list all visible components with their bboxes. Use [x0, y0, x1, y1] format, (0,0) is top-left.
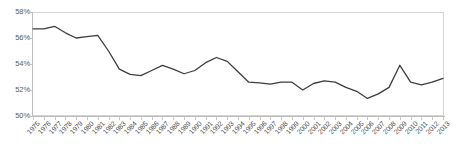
x-tick-mark — [281, 117, 282, 120]
y-tick-mark — [28, 38, 32, 39]
x-tick-mark — [216, 117, 217, 120]
x-tick-mark — [303, 117, 304, 120]
x-tick-mark — [184, 117, 185, 120]
y-tick-mark — [28, 90, 32, 91]
x-tick-mark — [400, 117, 401, 120]
x-tick-mark — [195, 117, 196, 120]
y-tick-label: 52% — [2, 86, 30, 94]
x-tick-mark — [421, 117, 422, 120]
x-tick-mark — [87, 117, 88, 120]
x-tick-mark — [292, 117, 293, 120]
x-tick-mark — [335, 117, 336, 120]
plot-area-border — [32, 12, 444, 116]
x-tick-mark — [324, 117, 325, 120]
x-tick-mark — [238, 117, 239, 120]
x-tick-mark — [270, 117, 271, 120]
y-tick-label: 54% — [2, 60, 30, 68]
y-tick-label: 58% — [2, 8, 30, 16]
x-tick-mark — [346, 117, 347, 120]
x-tick-mark — [119, 117, 120, 120]
x-tick-mark — [249, 117, 250, 120]
x-tick-mark — [162, 117, 163, 120]
x-tick-mark — [152, 117, 153, 120]
x-axis-labels: 1975197619771978197919801981198219831984… — [0, 117, 460, 152]
x-tick-mark — [76, 117, 77, 120]
x-tick-mark — [378, 117, 379, 120]
y-tick-mark — [28, 12, 32, 13]
x-tick-mark — [260, 117, 261, 120]
x-tick-mark — [98, 117, 99, 120]
x-tick-mark — [33, 117, 34, 120]
x-tick-mark — [357, 117, 358, 120]
x-tick-mark — [109, 117, 110, 120]
y-tick-label: 56% — [2, 34, 30, 42]
x-tick-mark — [443, 117, 444, 120]
line-chart: 50%52%54%56%58% 197519761977197819791980… — [0, 0, 460, 152]
x-tick-mark — [55, 117, 56, 120]
x-tick-mark — [65, 117, 66, 120]
x-tick-mark — [367, 117, 368, 120]
x-tick-mark — [130, 117, 131, 120]
x-tick-mark — [389, 117, 390, 120]
x-tick-mark — [44, 117, 45, 120]
y-tick-mark — [28, 64, 32, 65]
x-tick-mark — [206, 117, 207, 120]
x-tick-mark — [173, 117, 174, 120]
x-tick-mark — [432, 117, 433, 120]
x-tick-mark — [411, 117, 412, 120]
x-tick-mark — [227, 117, 228, 120]
x-tick-mark — [314, 117, 315, 120]
x-tick-mark — [141, 117, 142, 120]
y-axis-line — [32, 12, 33, 117]
